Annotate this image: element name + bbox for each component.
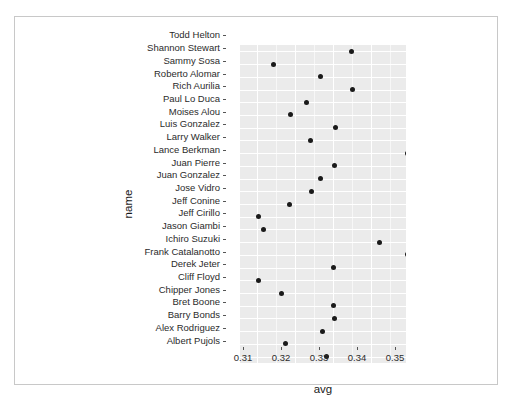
gridline-horizontal [240,268,406,269]
gridline-horizontal [240,64,406,65]
gridline-horizontal [240,128,406,129]
y-axis-tick-mark [223,264,226,265]
y-axis-tick-mark [223,61,226,62]
y-axis-tick-mark [223,124,226,125]
x-axis-tick-label: 0.32 [272,353,291,363]
x-axis-tick-mark [395,347,396,350]
chart-screenshot: Todd HeltonShannon StewartSammy SosaRobe… [0,0,519,397]
y-axis-tick-label: Juan Pierre [80,158,220,168]
gridline-horizontal [240,51,406,52]
y-axis-tick-label: Jose Vidro [80,183,220,193]
y-axis-tick-label: Paul Lo Duca [80,94,220,104]
data-point [331,265,336,270]
figure-frame: Todd HeltonShannon StewartSammy SosaRobe… [14,16,498,385]
y-axis-tick-label: Rich Aurilia [80,81,220,91]
x-axis-tick-label: 0.35 [386,353,405,363]
data-point [318,176,323,181]
x-axis-tick-label: 0.33 [310,353,329,363]
y-axis-tick-mark [223,137,226,138]
data-point [304,100,309,105]
y-axis-tick-label: Alex Rodriguez [80,323,220,333]
gridline-horizontal [240,293,406,294]
y-axis-tick-mark [223,175,226,176]
y-axis-tick-label: Todd Helton [80,31,220,41]
y-axis-tick-label: Sammy Sosa [80,56,220,66]
y-axis-tick-mark [223,188,226,189]
data-point [308,138,313,143]
y-axis-tick-mark [223,99,226,100]
gridline-horizontal [240,90,406,91]
data-point [331,303,336,308]
gridline-horizontal [240,102,406,103]
plot-panel [240,45,406,363]
data-point [283,341,288,346]
y-axis-tick-mark [223,341,226,342]
y-axis-tick-label: Frank Catalanotto [80,247,220,257]
data-point [320,329,325,334]
y-axis-tick-label: Ichiro Suzuki [80,234,220,244]
x-axis-tick-mark [357,347,358,350]
gridline-horizontal [240,280,406,281]
x-axis-title: avg [240,383,406,395]
data-point [261,227,266,232]
y-axis-tick-label: Jason Giambi [80,221,220,231]
data-point [332,316,337,321]
gridline-horizontal [240,344,406,345]
y-axis-title: name [122,190,134,219]
data-point [405,252,406,257]
y-axis-tick-mark [223,226,226,227]
x-axis-tick-mark [281,347,282,350]
x-axis-tick-mark [243,347,244,350]
data-point [288,112,293,117]
y-axis-tick-label: Derek Jeter [80,260,220,270]
data-point [349,49,354,54]
gridline-horizontal [240,217,406,218]
x-axis-tick-mark [319,347,320,350]
y-axis-tick-mark [223,252,226,253]
data-point [279,291,284,296]
y-axis-tick-label: Moises Alou [80,107,220,117]
y-axis-tick-mark [223,277,226,278]
y-axis-tick-mark [223,48,226,49]
y-axis-tick-mark [223,328,226,329]
x-axis-tick-label: 0.31 [234,353,253,363]
y-axis-tick-label: Barry Bonds [80,310,220,320]
y-axis-tick-mark [223,302,226,303]
y-axis-tick-label: Lance Berkman [80,145,220,155]
gridline-horizontal [240,153,406,154]
data-point [271,62,276,67]
y-axis-tick-label: Luis Gonzalez [80,120,220,130]
y-axis-tick-label: Chipper Jones [80,285,220,295]
y-axis-tick-label: Jeff Cirillo [80,209,220,219]
data-point [256,214,261,219]
gridline-horizontal [240,166,406,167]
y-axis-tick-mark [223,150,226,151]
gridline-horizontal [240,306,406,307]
gridline-horizontal [240,77,406,78]
y-axis-tick-label: Jeff Conine [80,196,220,206]
y-axis-tick-mark [223,163,226,164]
gridline-horizontal [240,191,406,192]
data-point [256,278,261,283]
gridline-horizontal [240,140,406,141]
data-point [287,202,292,207]
y-axis-tick-mark [223,112,226,113]
data-point [333,125,338,130]
y-axis-tick-mark [223,201,226,202]
y-axis-tick-label: Larry Walker [80,132,220,142]
y-axis-tick-mark [223,239,226,240]
x-axis-tick-label: 0.34 [348,353,367,363]
gridline-horizontal [240,318,406,319]
y-axis-tick-mark [223,290,226,291]
data-point [377,240,382,245]
y-axis-tick-mark [223,35,226,36]
gridline-horizontal [240,255,406,256]
y-axis-tick-mark [223,74,226,75]
data-point [350,87,355,92]
y-axis-tick-label: Shannon Stewart [80,43,220,53]
data-point [332,163,337,168]
gridline-horizontal [240,179,406,180]
data-point [318,74,323,79]
gridline-horizontal [240,204,406,205]
y-axis-tick-label: Albert Pujols [80,336,220,346]
